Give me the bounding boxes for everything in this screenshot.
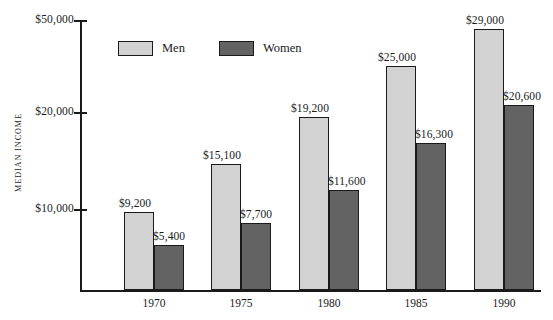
bar-value-label: $29,000: [466, 14, 504, 26]
bar-value-label: $11,600: [328, 175, 366, 187]
bar-value-label: $15,100: [203, 149, 241, 161]
bar-value-label: $5,400: [153, 230, 185, 242]
legend-item-women: Women: [219, 41, 302, 56]
x-axis-line: [80, 290, 541, 292]
bar-value-label: $7,700: [240, 208, 272, 220]
bar-value-label: $20,600: [503, 90, 541, 102]
bar-1975-men: [211, 164, 241, 290]
bar-value-label: $19,200: [291, 102, 329, 114]
bar-1985-women: [416, 143, 446, 290]
x-axis-label: 1975: [230, 297, 253, 309]
legend-swatch-men: [118, 41, 153, 56]
y-axis-tick-label: $20,000: [2, 105, 74, 117]
legend-swatch-women: [219, 41, 254, 56]
bar-chart: MEDIAN INCOME $50,000$20,000$10,000 Men …: [0, 0, 553, 320]
y-axis-tick-label: $50,000: [2, 13, 74, 25]
bar-value-label: $25,000: [378, 51, 416, 63]
x-axis-label: 1970: [143, 297, 166, 309]
bar-1970-men: [124, 212, 154, 290]
legend-label-women: Women: [263, 41, 302, 56]
x-axis-label: 1990: [493, 297, 516, 309]
x-axis-label: 1985: [405, 297, 428, 309]
bar-1970-women: [154, 245, 184, 290]
bar-value-label: $16,300: [415, 128, 453, 140]
y-axis-tick: [74, 112, 87, 114]
y-axis-tick: [74, 20, 87, 22]
y-axis-tick-label: $10,000: [2, 202, 74, 214]
bar-1990-women: [504, 105, 534, 290]
bar-1990-men: [474, 29, 504, 290]
bar-1985-men: [386, 66, 416, 290]
bar-1975-women: [241, 223, 271, 290]
y-axis-line: [80, 20, 82, 291]
legend-label-men: Men: [162, 41, 185, 56]
x-axis-label: 1980: [318, 297, 341, 309]
chart-legend: Men Women: [118, 41, 302, 56]
bar-1980-men: [299, 117, 329, 290]
legend-item-men: Men: [118, 41, 185, 56]
bar-1980-women: [329, 190, 359, 290]
bar-value-label: $9,200: [119, 197, 151, 209]
y-axis-tick: [74, 209, 87, 211]
